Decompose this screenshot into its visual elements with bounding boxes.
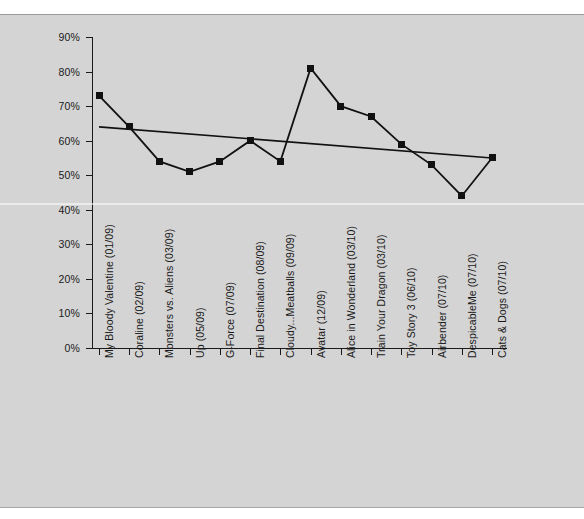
data-point-marker[interactable]: [307, 65, 314, 72]
data-point-marker[interactable]: [277, 158, 284, 165]
trendline: [99, 127, 492, 158]
data-point-marker[interactable]: [186, 168, 193, 175]
data-point-marker[interactable]: [458, 192, 465, 199]
data-point-marker[interactable]: [247, 137, 254, 144]
data-point-marker[interactable]: [156, 158, 163, 165]
line-series-layer: [0, 0, 584, 519]
data-point-marker[interactable]: [216, 158, 223, 165]
chart-plot-area: 0%10%20%30%40%50%60%70%80%90% My Bloody …: [0, 0, 584, 519]
data-point-marker[interactable]: [489, 154, 496, 161]
data-point-marker[interactable]: [428, 161, 435, 168]
data-point-marker[interactable]: [126, 123, 133, 130]
data-point-marker[interactable]: [337, 103, 344, 110]
data-point-marker[interactable]: [398, 141, 405, 148]
data-point-marker[interactable]: [368, 113, 375, 120]
data-point-marker[interactable]: [96, 92, 103, 99]
